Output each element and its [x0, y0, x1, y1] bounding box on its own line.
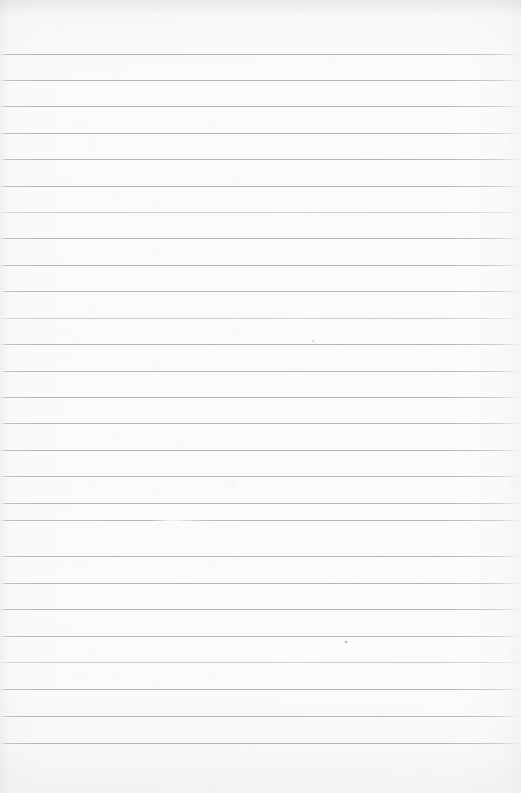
ruled-line-23	[0, 636, 521, 637]
ruled-line-20	[0, 556, 521, 557]
ruled-line-1	[0, 54, 521, 55]
speck-upper-mid	[312, 340, 314, 342]
ruled-line-17	[0, 476, 521, 477]
ruled-line-9	[0, 265, 521, 266]
ruled-line-21	[0, 583, 521, 584]
scanned-page	[0, 0, 521, 793]
ruled-line-27	[0, 743, 521, 744]
ruled-line-14	[0, 397, 521, 398]
ruled-line-25	[0, 689, 521, 690]
ruled-lines-group	[0, 0, 521, 793]
ruled-line-11	[0, 318, 521, 319]
ruled-line-7	[0, 212, 521, 213]
ruled-line-19	[0, 520, 521, 521]
ruled-line-5	[0, 159, 521, 160]
ruled-line-12	[0, 344, 521, 345]
ruled-line-8	[0, 238, 521, 239]
ruled-line-2	[0, 80, 521, 81]
ruled-line-15	[0, 423, 521, 424]
ruled-line-16	[0, 450, 521, 451]
ruled-line-3	[0, 106, 521, 107]
ruled-line-13	[0, 371, 521, 372]
ruled-line-10	[0, 291, 521, 292]
ruled-line-4	[0, 133, 521, 134]
ruled-line-6	[0, 186, 521, 187]
ruled-line-24	[0, 662, 521, 663]
ruled-line-26	[0, 716, 521, 717]
ruled-line-22	[0, 609, 521, 610]
ruled-line-18	[0, 503, 521, 504]
speck-mid-right	[345, 641, 347, 643]
